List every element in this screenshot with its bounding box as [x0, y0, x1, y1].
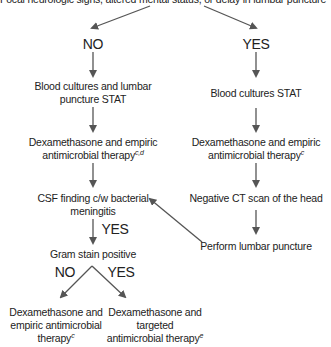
text-line: antimicrobial therapye [95, 332, 215, 345]
csf-yes-label: YES [100, 221, 130, 237]
arrow-root-to-no [92, 6, 150, 28]
text-line: Dexamethasone and [95, 306, 215, 319]
footnote-marker: c [301, 149, 304, 156]
footnote-marker: e [199, 332, 203, 339]
perform-lp-node: Perform lumbar puncture [176, 240, 331, 253]
split-yes-label: YES [106, 264, 136, 280]
root-condition: Focal neurologic signs, altered mental s… [0, 0, 323, 6]
outcome-targeted-node: Dexamethasone and targeted antimicrobial… [95, 306, 215, 345]
left-dexa-empiric-node: Dexamethasone and empiric antimicrobial … [13, 136, 173, 162]
text-line: puncture STAT [13, 93, 173, 106]
left-csf-finding-node: CSF finding c/w bacterial meningitis [13, 192, 173, 218]
negative-ct-node: Negative CT scan of the head [176, 192, 331, 205]
text-line: antimicrobial therapyc [176, 149, 331, 162]
text-line: CSF finding c/w bacterial [13, 192, 173, 205]
text-line: antimicrobial therapyc,d [13, 149, 173, 162]
text-line: Dexamethasone and empiric [176, 136, 331, 149]
text-line-span: therapy [38, 332, 72, 344]
arrow-root-to-yes [204, 6, 256, 28]
text-line-span: antimicrobial therapy [42, 149, 135, 161]
text-line: Dexamethasone and empiric [13, 136, 173, 149]
text-line: targeted [95, 319, 215, 332]
text-line-span: antimicrobial therapy [208, 149, 301, 161]
right-blood-cultures-node: Blood cultures STAT [176, 87, 331, 100]
branch-no-label: NO [73, 36, 113, 52]
text-line: meningitis [13, 205, 173, 218]
split-no-label: NO [53, 264, 77, 280]
text-line-span: antimicrobial therapy [107, 332, 200, 344]
branch-yes-label: YES [234, 36, 278, 52]
gram-stain-node: Gram stain positive [13, 248, 173, 261]
footnote-marker: c [71, 332, 74, 339]
right-dexa-empiric-node: Dexamethasone and empiric antimicrobial … [176, 136, 331, 162]
footnote-marker: c,d [135, 149, 144, 156]
left-blood-cultures-lp-node: Blood cultures and lumbar puncture STAT [13, 80, 173, 106]
text-line: Blood cultures and lumbar [13, 80, 173, 93]
